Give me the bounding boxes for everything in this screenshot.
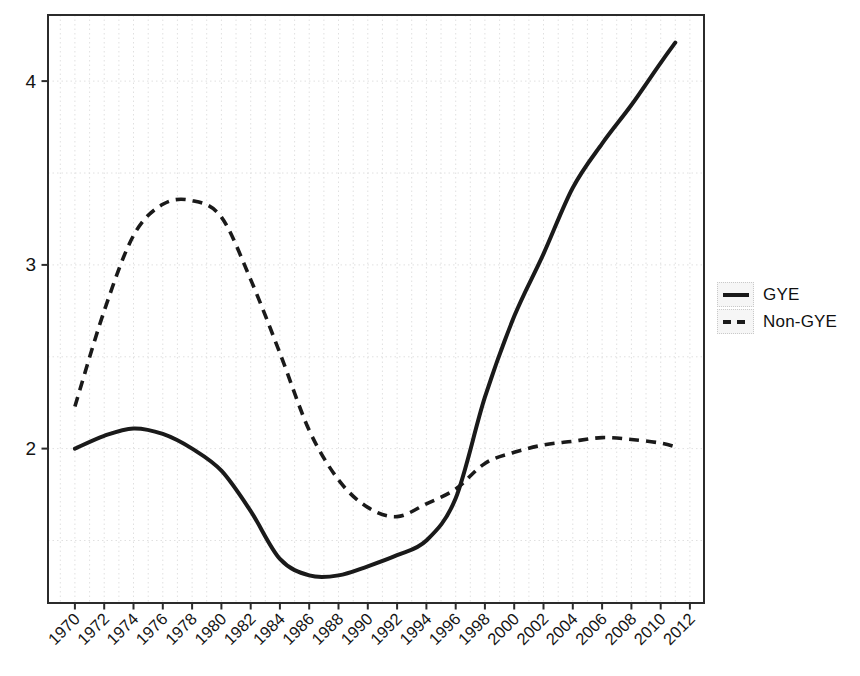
x-tick-label: 2000 <box>484 609 523 648</box>
y-tick-label: 4 <box>25 71 36 92</box>
legend-label-gye: GYE <box>763 285 800 305</box>
plot-border <box>48 15 704 603</box>
gridlines <box>48 15 704 603</box>
x-tick-label: 1986 <box>279 609 318 648</box>
gye-line <box>75 43 675 577</box>
x-tick-label: 1996 <box>425 609 464 648</box>
chart-canvas: 1970197219741976197819801982198419861988… <box>0 0 860 676</box>
legend-label-non-gye: Non-GYE <box>763 312 837 332</box>
x-tick-label: 1972 <box>74 609 113 648</box>
x-tick-label: 2002 <box>513 609 552 648</box>
x-tick-label: 2012 <box>659 609 698 648</box>
legend-item-gye: GYE <box>717 281 837 308</box>
x-axis-labels: 1970197219741976197819801982198419861988… <box>44 609 698 648</box>
x-tick-label: 2008 <box>601 609 640 648</box>
series-lines <box>75 43 675 577</box>
legend: GYE Non-GYE <box>717 281 837 335</box>
x-tick-label: 1994 <box>396 609 435 648</box>
x-tick-label: 1988 <box>308 609 347 648</box>
solid-line-swatch <box>723 293 749 297</box>
x-tick-label: 1980 <box>191 609 230 648</box>
legend-item-non-gye: Non-GYE <box>717 308 837 335</box>
x-tick-label: 2010 <box>630 609 669 648</box>
non-gye-key-box <box>717 309 754 334</box>
dashed-line-swatch <box>723 320 749 324</box>
x-tick-label: 1970 <box>44 609 83 648</box>
x-tick-label: 1974 <box>103 609 142 648</box>
chart-figure: 1970197219741976197819801982198419861988… <box>0 0 860 676</box>
x-tick-label: 2004 <box>542 609 581 648</box>
x-tick-label: 2006 <box>572 609 611 648</box>
non-gye-line <box>75 199 675 516</box>
x-tick-label: 1982 <box>220 609 259 648</box>
x-tick-label: 1998 <box>454 609 493 648</box>
x-tick-label: 1992 <box>367 609 406 648</box>
x-tick-label: 1990 <box>337 609 376 648</box>
x-tick-label: 1976 <box>132 609 171 648</box>
y-tick-label: 3 <box>25 254 36 275</box>
x-tick-label: 1978 <box>162 609 201 648</box>
x-tick-label: 1984 <box>249 609 288 648</box>
gye-key-box <box>717 282 754 307</box>
y-tick-label: 2 <box>25 438 36 459</box>
y-axis-labels: 234 <box>25 71 36 460</box>
